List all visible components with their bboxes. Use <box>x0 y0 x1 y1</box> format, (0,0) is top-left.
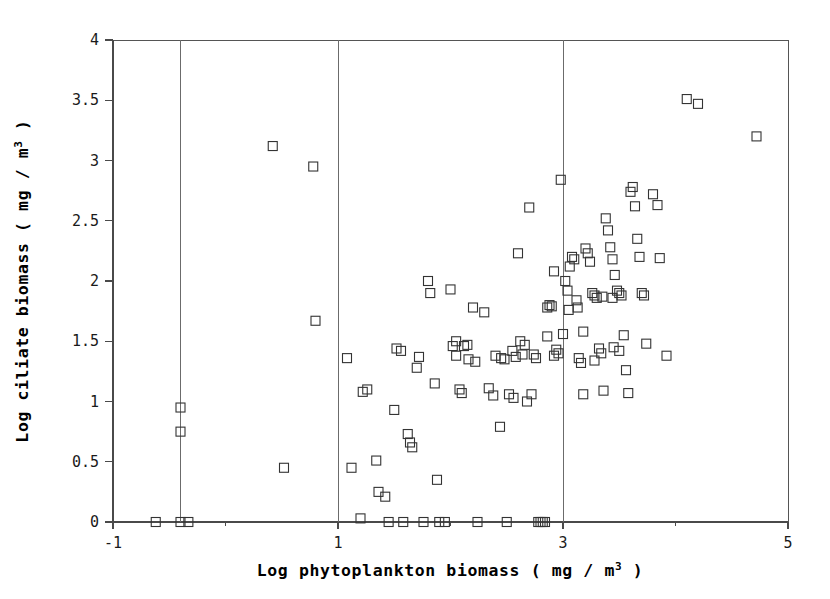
data-point-marker <box>471 357 480 366</box>
y-axis-ticks <box>105 40 113 522</box>
data-point-marker <box>518 350 527 359</box>
plot-frame <box>113 40 788 522</box>
scatter-plot-figure: -1135 00.511.522.533.54 Log phytoplankto… <box>0 0 830 599</box>
x-tick-label: -1 <box>104 534 122 552</box>
data-point-marker <box>631 202 640 211</box>
data-point-marker <box>464 355 473 364</box>
data-point-marker <box>622 366 631 375</box>
data-point-marker <box>586 257 595 266</box>
data-point-marker <box>455 385 464 394</box>
data-point-marker <box>633 234 642 243</box>
data-point-marker <box>752 132 761 141</box>
data-point-marker <box>457 389 466 398</box>
data-point-marker <box>415 352 424 361</box>
reference-lines <box>181 40 564 522</box>
data-point-marker <box>550 267 559 276</box>
data-point-marker <box>653 201 662 210</box>
data-point-marker <box>637 289 646 298</box>
data-point-marker <box>309 162 318 171</box>
plot-canvas: -1135 00.511.522.533.54 Log phytoplankto… <box>0 0 830 599</box>
data-point-marker <box>640 291 649 300</box>
data-point-marker <box>642 339 651 348</box>
y-tick-label: 1.5 <box>72 332 99 350</box>
y-tick-label: 0.5 <box>72 453 99 471</box>
data-point-marker <box>446 285 455 294</box>
x-axis-title: Log phytoplankton biomass ( mg / m3 ) <box>257 560 643 580</box>
data-point-marker <box>433 475 442 484</box>
y-tick-label: 0 <box>90 513 99 531</box>
data-point-marker <box>564 305 573 314</box>
data-point-marker <box>412 363 421 372</box>
data-point-marker <box>280 463 289 472</box>
data-point-marker <box>469 303 478 312</box>
data-point-marker <box>496 422 505 431</box>
data-point-marker <box>563 286 572 295</box>
data-point-marker <box>491 351 500 360</box>
data-point-marker <box>568 252 577 261</box>
data-point-marker <box>426 289 435 298</box>
y-axis-title: Log ciliate biomass ( mg / m3 ) <box>12 119 32 442</box>
data-point-marker <box>655 254 664 263</box>
x-tick-label: 1 <box>333 534 342 552</box>
data-point-marker <box>543 332 552 341</box>
data-point-marker <box>452 351 461 360</box>
data-point-marker <box>525 203 534 212</box>
data-point-marker <box>556 175 565 184</box>
y-tick-label: 3.5 <box>72 91 99 109</box>
data-point-marker <box>579 390 588 399</box>
y-tick-label: 1 <box>90 393 99 411</box>
data-point-marker <box>529 350 538 359</box>
x-axis-tick-labels: -1135 <box>104 534 793 552</box>
x-tick-label: 5 <box>783 534 792 552</box>
x-axis-minor-ticks <box>226 522 676 526</box>
data-point-marker <box>390 405 399 414</box>
data-point-marker <box>694 99 703 108</box>
data-point-marker <box>624 389 633 398</box>
y-tick-label: 4 <box>90 31 99 49</box>
data-point-marker <box>608 255 617 264</box>
data-point-marker <box>347 463 356 472</box>
y-tick-label: 3 <box>90 152 99 170</box>
data-point-marker <box>561 277 570 286</box>
data-point-marker <box>343 354 352 363</box>
data-point-marker <box>311 316 320 325</box>
data-point-marker <box>403 430 412 439</box>
data-point-marker <box>649 190 658 199</box>
data-point-marker <box>430 379 439 388</box>
data-point-marker <box>514 249 523 258</box>
y-tick-label: 2 <box>90 272 99 290</box>
y-tick-label: 2.5 <box>72 212 99 230</box>
data-point-marker <box>619 331 628 340</box>
data-point-marker <box>609 343 618 352</box>
data-point-marker <box>604 226 613 235</box>
data-point-marker <box>615 346 624 355</box>
data-point-marker <box>511 352 520 361</box>
data-point-marker <box>480 308 489 317</box>
data-point-marker <box>601 214 610 223</box>
data-point-marker <box>372 456 381 465</box>
data-point-marker <box>579 327 588 336</box>
data-point-marker <box>532 354 541 363</box>
y-axis-tick-labels: 00.511.522.533.54 <box>72 31 99 531</box>
x-tick-label: 3 <box>558 534 567 552</box>
data-point-marker <box>599 386 608 395</box>
data-point-marker <box>268 142 277 151</box>
data-point-marker <box>635 252 644 261</box>
data-point-marker <box>662 351 671 360</box>
data-point-marker <box>610 270 619 279</box>
data-point-marker <box>682 95 691 104</box>
data-point-marker <box>552 345 561 354</box>
data-point-marker <box>508 346 517 355</box>
data-point-markers <box>151 95 761 527</box>
data-point-marker <box>606 243 615 252</box>
data-point-marker <box>424 277 433 286</box>
